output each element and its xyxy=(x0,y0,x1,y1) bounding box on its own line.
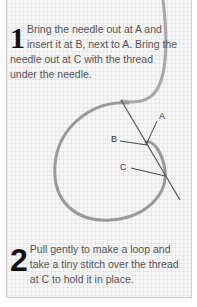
thread-loop xyxy=(55,103,165,220)
label-a: A xyxy=(159,111,165,121)
step-number: 2 xyxy=(10,246,28,274)
step-number: 1 xyxy=(10,25,25,51)
label-c: C xyxy=(120,162,127,172)
needle xyxy=(121,100,180,200)
step-text: Bring the needle out at A and insert it … xyxy=(10,23,177,80)
label-b: B xyxy=(111,134,117,144)
step-1: 1 Bring the needle out at A and insert i… xyxy=(10,22,182,82)
step-2: 2 Pull gently to make a loop and take a … xyxy=(10,242,182,287)
step-text: Pull gently to make a loop and take a ti… xyxy=(30,243,179,285)
